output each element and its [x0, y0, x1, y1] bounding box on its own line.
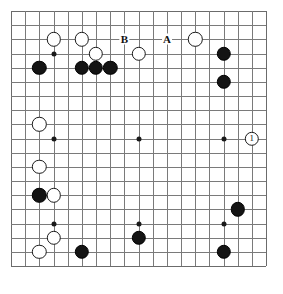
stone-white-2-11[interactable] [32, 160, 46, 174]
star-point-5 [221, 136, 226, 141]
stone-black-5-4[interactable] [75, 60, 89, 74]
stone-black-9-16[interactable] [131, 231, 145, 245]
grid-line-vertical-13 [195, 11, 196, 266]
stone-black-6-4[interactable] [89, 60, 103, 74]
grid-line-horizontal-14 [11, 209, 266, 210]
stone-white-5-2[interactable] [75, 32, 89, 46]
stone-black-5-17[interactable] [75, 245, 89, 259]
goban-grid[interactable]: 1BA [0, 0, 283, 294]
star-point-8 [221, 221, 226, 226]
stone-black-16-14[interactable] [231, 202, 245, 216]
grid-line-vertical-10 [153, 11, 154, 266]
stone-white-17-9[interactable]: 1 [245, 131, 259, 145]
grid-line-horizontal-18 [11, 266, 266, 267]
stone-white-13-2[interactable] [188, 32, 202, 46]
star-point-4 [136, 136, 141, 141]
stone-white-3-13[interactable] [46, 188, 60, 202]
star-point-7 [136, 221, 141, 226]
grid-line-vertical-12 [181, 11, 182, 266]
star-point-3 [51, 136, 56, 141]
stone-white-6-3[interactable] [89, 46, 103, 60]
grid-line-vertical-14 [209, 11, 210, 266]
grid-line-vertical-11 [167, 11, 168, 266]
grid-line-horizontal-11 [11, 167, 266, 168]
stone-black-2-4[interactable] [32, 60, 46, 74]
star-point-0 [51, 51, 56, 56]
go-board-diagram: 1BA [0, 0, 283, 294]
grid-line-horizontal-10 [11, 153, 266, 154]
stone-black-7-4[interactable] [103, 60, 117, 74]
stone-white-3-2[interactable] [46, 32, 60, 46]
stone-white-9-3[interactable] [131, 46, 145, 60]
grid-line-horizontal-12 [11, 181, 266, 182]
stone-black-15-17[interactable] [216, 245, 230, 259]
stone-black-15-3[interactable] [216, 46, 230, 60]
stone-black-2-13[interactable] [32, 188, 46, 202]
stone-black-15-5[interactable] [216, 75, 230, 89]
board-marker-b: B [120, 34, 129, 45]
grid-line-vertical-18 [266, 11, 267, 266]
board-marker-a: A [162, 34, 172, 45]
stone-white-2-17[interactable] [32, 245, 46, 259]
star-point-6 [51, 221, 56, 226]
grid-line-vertical-16 [238, 11, 239, 266]
stone-white-3-16[interactable] [46, 231, 60, 245]
stone-white-2-8[interactable] [32, 117, 46, 131]
